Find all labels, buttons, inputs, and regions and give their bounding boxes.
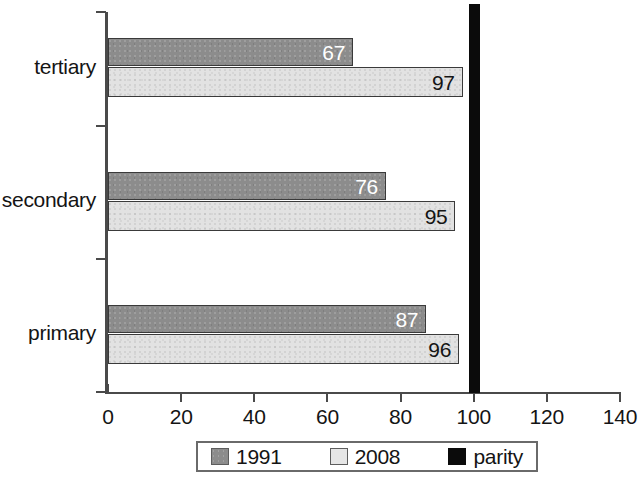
legend-swatch-1991-icon bbox=[211, 448, 229, 465]
bar-value-label: 67 bbox=[322, 42, 352, 63]
legend-item-1991: 1991 bbox=[211, 445, 282, 468]
y-axis-tick bbox=[96, 11, 106, 13]
x-axis-tick-label: 20 bbox=[151, 404, 211, 430]
bar-value-label: 96 bbox=[428, 339, 458, 360]
x-axis-tick-label: 140 bbox=[590, 404, 638, 430]
x-axis-tick-label: 60 bbox=[297, 404, 357, 430]
legend-item-parity: parity bbox=[448, 445, 523, 468]
x-axis-tick-label: 40 bbox=[224, 404, 284, 430]
x-axis-tick-label: 120 bbox=[517, 404, 577, 430]
bar-secondary-2008: 95 bbox=[108, 201, 455, 231]
parity-reference-line bbox=[469, 4, 480, 393]
bar-value-label: 97 bbox=[432, 72, 462, 93]
legend-swatch-parity-icon bbox=[448, 448, 466, 465]
legend-swatch-2008-icon bbox=[330, 448, 348, 465]
bar-value-label: 87 bbox=[395, 309, 425, 330]
x-axis-tick bbox=[400, 393, 402, 402]
x-axis-tick bbox=[619, 393, 621, 402]
y-axis-tick bbox=[96, 125, 106, 127]
x-axis-tick bbox=[546, 393, 548, 402]
chart-legend: 1991 2008 parity bbox=[196, 441, 538, 472]
bar-secondary-1991: 76 bbox=[108, 172, 386, 200]
bar-value-label: 76 bbox=[355, 176, 385, 197]
bar-value-label: 95 bbox=[425, 206, 455, 227]
bar-tertiary-2008: 97 bbox=[108, 67, 463, 97]
legend-label-2008: 2008 bbox=[355, 445, 401, 468]
bar-primary-2008: 96 bbox=[108, 334, 459, 364]
legend-label-parity: parity bbox=[473, 445, 523, 468]
x-axis-tick-label: 0 bbox=[78, 404, 138, 430]
y-axis-tick bbox=[96, 391, 106, 393]
x-axis-tick bbox=[326, 393, 328, 402]
x-axis-line bbox=[105, 392, 621, 394]
x-axis-tick bbox=[253, 393, 255, 402]
x-axis-tick bbox=[107, 384, 109, 394]
y-axis-category-label: secondary bbox=[0, 187, 96, 212]
bar-primary-1991: 87 bbox=[108, 305, 426, 333]
legend-item-2008: 2008 bbox=[330, 445, 401, 468]
x-axis-tick-label: 100 bbox=[444, 404, 504, 430]
x-axis-tick-label: 80 bbox=[371, 404, 431, 430]
legend-label-1991: 1991 bbox=[236, 445, 282, 468]
y-axis-category-label: primary bbox=[0, 320, 96, 345]
x-axis-tick bbox=[473, 393, 475, 402]
x-axis-tick bbox=[180, 393, 182, 402]
bar-chart: 020406080100120140primary8796secondary76… bbox=[0, 0, 638, 477]
y-axis-category-label: tertiary bbox=[0, 54, 96, 79]
y-axis-tick bbox=[96, 258, 106, 260]
bar-tertiary-1991: 67 bbox=[108, 38, 353, 66]
